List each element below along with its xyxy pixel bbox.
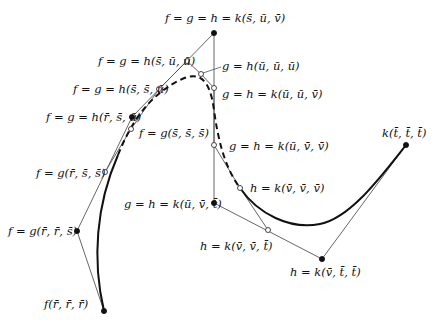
point-label-p14: h = k(v̄, v̄, t̄)	[200, 239, 273, 253]
point-label-p12: g = h = k(ū, v̄, t̄)	[124, 197, 222, 211]
filled-point-marker-icon	[101, 308, 106, 313]
point-label-p3: f = g(r̄, s̄, s̄)	[35, 166, 105, 180]
open-point-marker-icon	[212, 86, 217, 91]
open-point-marker-icon	[212, 143, 217, 148]
filled-point-marker-icon	[403, 142, 408, 147]
point-label-p9: g = h(ū, ū, ū)	[222, 59, 300, 73]
point-label-p13: h = k(v̄, v̄, v̄)	[250, 181, 324, 195]
point-label-p5: f = g = h(r̄, s̄, ū)	[45, 110, 141, 124]
open-point-marker-icon	[238, 186, 243, 191]
filled-point-marker-icon	[319, 256, 324, 261]
leader-line	[203, 67, 221, 73]
point-labels: f(r̄, r̄, r̄)f = g(r̄, r̄, s̄)f = g(r̄, …	[7, 11, 426, 311]
point-label-p16: k(t̄, t̄, t̄)	[382, 126, 426, 140]
point-label-p6: f = g = h(s̄, s̄, ū)	[72, 82, 169, 96]
point-label-p7: f = g = h(s̄, ū, ū)	[97, 54, 195, 68]
open-point-marker-icon	[266, 228, 271, 233]
point-label-p15: h = k(v̄, t̄, t̄)	[290, 265, 361, 279]
leader-lines	[203, 67, 221, 73]
filled-point-marker-icon	[211, 30, 216, 35]
open-point-marker-icon	[129, 127, 134, 132]
point-label-p1: f(r̄, r̄, r̄)	[43, 297, 88, 311]
point-label-p11: g = h = k(ū, v̄, v̄)	[229, 139, 329, 153]
open-point-marker-icon	[199, 72, 204, 77]
point-label-p10: g = h = k(ū, ū, v̄)	[222, 87, 323, 101]
point-label-p4: f = g(s̄, s̄, s̄)	[138, 126, 209, 140]
point-label-p2: f = g(r̄, r̄, s̄)	[7, 224, 77, 238]
point-label-p8: f = g = h = k(s̄, ū, v̄)	[164, 11, 285, 25]
bspline-diagram: f(r̄, r̄, r̄)f = g(r̄, r̄, s̄)f = g(r̄, …	[0, 0, 442, 334]
